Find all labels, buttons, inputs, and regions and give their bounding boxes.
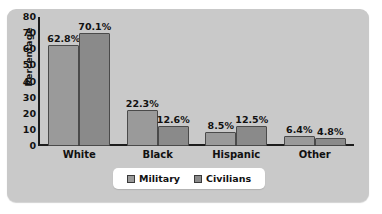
bar-military-black[interactable]: 22.3% (127, 110, 158, 146)
legend-swatch-icon (194, 175, 202, 183)
y-tick-label: 0 (14, 141, 36, 151)
bar-group: 62.8%70.1% (40, 17, 119, 146)
bar-value-label: 4.8% (317, 126, 343, 137)
bar-chart: Percentage 80706050403020100 62.8%70.1%2… (0, 0, 382, 214)
y-axis-ticks: 80706050403020100 (14, 10, 36, 150)
legend-item-civilians[interactable]: Civilians (194, 173, 251, 184)
y-tick-label: 80 (14, 12, 36, 22)
y-tick-label: 50 (14, 60, 36, 70)
x-axis-label-black: Black (119, 149, 198, 160)
y-tick-label: 70 (14, 28, 36, 38)
legend-label: Civilians (206, 173, 251, 184)
bar-value-label: 62.8% (47, 33, 80, 44)
bar-civilians-other[interactable]: 4.8% (315, 138, 346, 146)
legend-item-military[interactable]: Military (127, 173, 180, 184)
x-axis-label-other: Other (276, 149, 355, 160)
bar-value-label: 6.4% (286, 124, 312, 135)
y-tick-label: 30 (14, 93, 36, 103)
y-tick-label: 40 (14, 77, 36, 87)
x-axis-label-hispanic: Hispanic (197, 149, 276, 160)
bar-civilians-hispanic[interactable]: 12.5% (236, 126, 267, 146)
legend-label: Military (139, 173, 180, 184)
bars-layer: 62.8%70.1%22.3%12.6%8.5%12.5%6.4%4.8% (40, 17, 354, 146)
chart-legend: MilitaryCivilians (113, 168, 265, 189)
bar-civilians-black[interactable]: 12.6% (158, 126, 189, 146)
bar-civilians-white[interactable]: 70.1% (79, 33, 110, 146)
y-tick-label: 10 (14, 125, 36, 135)
bar-military-other[interactable]: 6.4% (284, 136, 315, 146)
bar-military-white[interactable]: 62.8% (48, 45, 79, 146)
bar-value-label: 8.5% (208, 120, 234, 131)
bar-value-label: 12.5% (235, 114, 268, 125)
y-tick-label: 20 (14, 109, 36, 119)
x-axis-labels: WhiteBlackHispanicOther (40, 149, 354, 165)
bar-group: 8.5%12.5% (197, 17, 276, 146)
bar-group: 6.4%4.8% (276, 17, 355, 146)
bar-military-hispanic[interactable]: 8.5% (205, 132, 236, 146)
bar-value-label: 22.3% (126, 98, 159, 109)
bar-value-label: 70.1% (78, 21, 111, 32)
bar-group: 22.3%12.6% (119, 17, 198, 146)
x-axis-label-white: White (40, 149, 119, 160)
legend-swatch-icon (127, 175, 135, 183)
y-tick-label: 60 (14, 44, 36, 54)
bar-value-label: 12.6% (157, 114, 190, 125)
